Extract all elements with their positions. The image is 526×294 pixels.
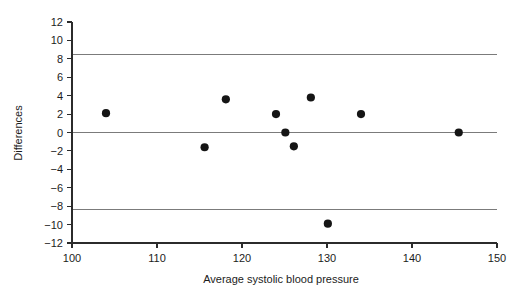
y-tick-label: 2: [57, 108, 63, 120]
y-tick-label: 10: [51, 34, 63, 46]
data-points: [102, 93, 463, 227]
x-axis-ticks: 100110120130140150: [63, 243, 506, 264]
x-tick-label: 120: [233, 252, 251, 264]
y-tick-label: 12: [51, 16, 63, 28]
y-tick-label: −12: [44, 237, 63, 249]
y-tick-label: −10: [44, 219, 63, 231]
x-tick-label: 130: [318, 252, 336, 264]
data-point: [357, 110, 365, 118]
y-tick-label: 0: [57, 127, 63, 139]
data-point: [272, 110, 280, 118]
data-point: [222, 95, 230, 103]
x-tick-label: 100: [63, 252, 81, 264]
data-point: [290, 142, 298, 150]
plot-area: 121086420−2−4−6−8−10−12 1001101201301401…: [0, 0, 526, 294]
data-point: [455, 128, 463, 136]
y-tick-label: −8: [50, 200, 63, 212]
y-tick-label: −4: [50, 163, 63, 175]
data-point: [201, 143, 209, 151]
data-point: [307, 93, 315, 101]
y-axis-ticks: 121086420−2−4−6−8−10−12: [44, 16, 72, 249]
data-point: [102, 109, 110, 117]
x-tick-label: 140: [403, 252, 421, 264]
y-axis-title: Differences: [12, 105, 24, 161]
y-tick-label: −6: [50, 182, 63, 194]
x-tick-label: 150: [488, 252, 506, 264]
bland-altman-chart: 121086420−2−4−6−8−10−12 1001101201301401…: [0, 0, 526, 294]
y-tick-label: 8: [57, 53, 63, 65]
data-point: [324, 220, 332, 228]
y-tick-label: 4: [57, 90, 63, 102]
y-tick-label: −2: [50, 145, 63, 157]
x-axis-title: Average systolic blood pressure: [203, 273, 359, 285]
x-tick-label: 110: [148, 252, 166, 264]
data-point: [281, 128, 289, 136]
y-tick-label: 6: [57, 71, 63, 83]
